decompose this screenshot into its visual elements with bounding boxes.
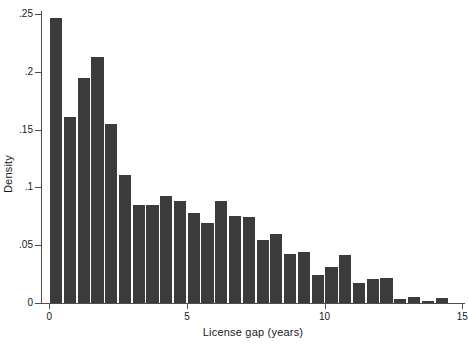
histogram-bar: [91, 57, 103, 303]
histogram-bar: [298, 252, 310, 303]
y-axis-title: Density: [0, 0, 16, 348]
histogram-bar: [394, 299, 406, 303]
histogram-bar: [78, 78, 90, 303]
histogram-bar: [188, 213, 200, 303]
y-tick-label: .1: [2, 181, 33, 192]
histogram-bar: [64, 117, 76, 303]
y-tick-label: 0: [2, 297, 33, 308]
x-tick-label: 10: [310, 311, 340, 322]
histogram-bar: [105, 124, 117, 303]
histogram-bar: [215, 201, 227, 303]
histogram-bar: [133, 205, 145, 303]
histogram-figure: Density 0.05.1.15.2.25 051015 License ga…: [0, 0, 468, 348]
x-tick-label: 0: [34, 311, 64, 322]
histogram-bar: [325, 267, 337, 303]
y-tick-mark: [35, 303, 42, 304]
histogram-bar: [408, 297, 420, 303]
histogram-bar: [339, 255, 351, 303]
histogram-bar: [284, 254, 296, 303]
histogram-bar: [174, 201, 186, 303]
x-axis-line: [41, 303, 465, 304]
histogram-bar: [380, 278, 392, 303]
x-tick-label: 5: [172, 311, 202, 322]
histogram-bar: [312, 275, 324, 303]
y-tick-label: .2: [2, 66, 33, 77]
histogram-bar: [353, 283, 365, 303]
histogram-bar: [422, 301, 434, 303]
plot-area: [41, 11, 465, 303]
histogram-bar: [367, 279, 379, 303]
histogram-bar: [243, 217, 255, 303]
histogram-bar: [229, 216, 241, 303]
x-tick-mark: [187, 303, 188, 309]
y-tick-label: .25: [2, 8, 33, 19]
histogram-bar: [50, 18, 62, 303]
x-tick-mark: [49, 303, 50, 309]
x-tick-label: 15: [447, 311, 468, 322]
histogram-bar: [146, 205, 158, 303]
x-tick-mark: [325, 303, 326, 309]
histogram-bar: [160, 196, 172, 303]
y-tick-label: .15: [2, 124, 33, 135]
histogram-bar: [119, 175, 131, 303]
histogram-bar: [270, 234, 282, 303]
histogram-bar: [257, 240, 269, 303]
y-tick-label: .05: [2, 239, 33, 250]
histogram-bar: [201, 223, 213, 303]
x-tick-mark: [462, 303, 463, 309]
histogram-bar: [436, 298, 448, 303]
x-axis-title: License gap (years): [41, 326, 465, 338]
